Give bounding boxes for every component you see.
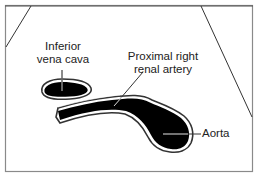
renal-artery-label-line2: renal artery bbox=[108, 63, 218, 76]
ultrasound-diagram bbox=[0, 0, 254, 174]
ivc-label: Inferior vena cava bbox=[34, 40, 92, 66]
aorta-label: Aorta bbox=[202, 127, 230, 140]
ivc-label-line1: Inferior bbox=[34, 40, 92, 53]
renal-artery-label-line1: Proximal right bbox=[108, 50, 218, 63]
renal-artery-label: Proximal right renal artery bbox=[108, 50, 218, 76]
ivc-label-line2: vena cava bbox=[34, 53, 92, 66]
